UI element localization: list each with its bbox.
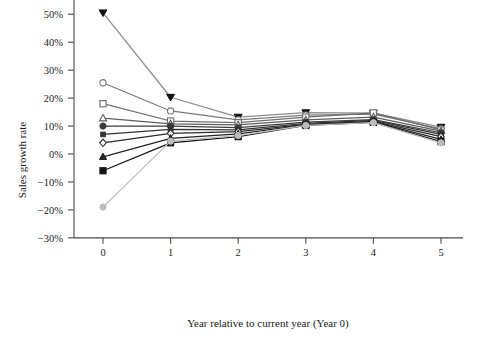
- x-axis: 012345: [74, 238, 463, 258]
- y-tick-label: 0%: [49, 149, 63, 160]
- y-tick-label: −20%: [38, 205, 63, 216]
- data-point-marker-diamond-open: [100, 139, 107, 146]
- y-axis: 50%40%30%20%10%0%−10%−20%−30%: [38, 0, 74, 244]
- x-tick-label: 4: [371, 247, 377, 258]
- data-series-layer: [99, 10, 445, 210]
- x-tick-label: 5: [438, 247, 443, 258]
- data-point-marker-circle-open: [100, 80, 106, 86]
- y-tick-label: 10%: [44, 121, 64, 132]
- sales-growth-rate-chart: 50%40%30%20%10%0%−10%−20%−30% 012345 Sal…: [0, 0, 487, 346]
- series-decile-10-lowest: [100, 120, 444, 211]
- data-point-marker-circle-filled: [438, 140, 444, 146]
- data-point-marker-circle-filled: [168, 138, 174, 144]
- data-point-marker-circle-filled: [100, 123, 106, 129]
- y-tick-label: 40%: [44, 37, 64, 48]
- y-tick-label: −30%: [38, 233, 63, 244]
- x-axis-title: Year relative to current year (Year 0): [187, 317, 349, 330]
- x-tick-label: 0: [100, 247, 105, 258]
- data-point-marker-circle-filled: [370, 120, 376, 126]
- y-tick-label: 30%: [44, 65, 64, 76]
- y-tick-label: 50%: [44, 9, 64, 20]
- data-point-marker-triangle-up-open: [99, 115, 106, 121]
- x-tick-label: 3: [303, 247, 308, 258]
- x-tick-label: 1: [168, 247, 173, 258]
- data-point-marker-square-filled: [100, 168, 106, 174]
- data-point-marker-square-small-filled: [101, 132, 106, 137]
- x-tick-label: 2: [236, 247, 241, 258]
- y-tick-label: −10%: [38, 177, 63, 188]
- data-point-marker-circle-filled: [303, 122, 309, 128]
- y-tick-label: 20%: [44, 93, 64, 104]
- data-point-marker-circle-open: [168, 108, 174, 114]
- data-point-marker-circle-filled: [235, 132, 241, 138]
- y-axis-title: Sales growth rate: [16, 122, 28, 198]
- chart-canvas: 50%40%30%20%10%0%−10%−20%−30% 012345 Sal…: [0, 0, 487, 346]
- data-point-marker-circle-filled: [100, 204, 106, 210]
- series-decile-1-highest: [99, 10, 445, 131]
- data-point-marker-square-open: [100, 101, 106, 107]
